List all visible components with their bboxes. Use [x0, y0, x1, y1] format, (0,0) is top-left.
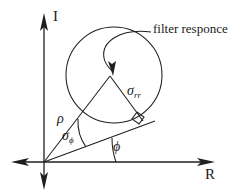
rho-label: ρ	[57, 112, 64, 126]
sigma-rr-symbol: σ	[127, 83, 134, 98]
phi-ray-line	[44, 121, 155, 162]
sigma-phi-label: σϕ	[62, 129, 74, 145]
sigma-rr-label: σrr	[127, 84, 141, 100]
phi-label: ϕ	[113, 140, 120, 154]
sigma-phi-symbol: σ	[62, 128, 69, 143]
rho-vector-line	[44, 76, 110, 162]
axis-label-real: R	[205, 167, 215, 182]
filter-response-circle	[66, 27, 162, 123]
sigma-phi-arc	[78, 119, 86, 147]
axis-label-imaginary: I	[53, 9, 58, 24]
filter-response-label: filter responce	[153, 22, 228, 35]
filter-response-diagram: I R filter responce ρ σrr σϕ ϕ	[0, 0, 251, 195]
sigma-rr-subscript: rr	[134, 90, 141, 100]
sigma-phi-subscript: ϕ	[69, 135, 74, 145]
